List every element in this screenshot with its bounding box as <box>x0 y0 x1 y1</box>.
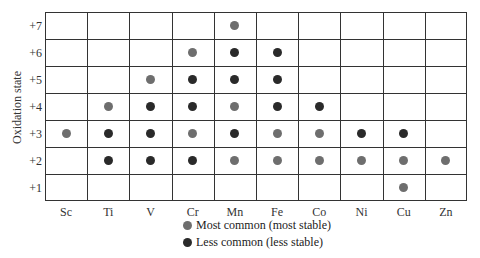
grid-vline <box>340 13 341 200</box>
x-tick-label: Ni <box>341 205 383 219</box>
legend-item-less-common: Less common (less stable) <box>183 234 331 251</box>
data-point-dot <box>315 129 324 138</box>
grid-hline <box>46 120 466 121</box>
y-tick-label: +7 <box>18 19 42 33</box>
legend-label: Most common (most stable) <box>196 217 331 234</box>
data-point-dot <box>273 48 282 57</box>
grid-vline <box>172 13 173 200</box>
data-point-dot <box>146 75 155 84</box>
legend: Most common (most stable) Less common (l… <box>183 217 331 251</box>
data-point-dot <box>273 156 282 165</box>
grid-vline <box>256 13 257 200</box>
x-tick-label: Zn <box>425 205 467 219</box>
grid-vline <box>298 13 299 200</box>
grid-vline <box>214 13 215 200</box>
y-tick-label: +4 <box>18 100 42 114</box>
grid-vline <box>129 13 130 200</box>
y-tick-label: +3 <box>18 127 42 141</box>
data-point-dot <box>357 156 366 165</box>
data-point-dot <box>315 156 324 165</box>
grid-vline <box>383 13 384 200</box>
x-tick-label: Cu <box>383 205 425 219</box>
y-tick-label: +2 <box>18 154 42 168</box>
grid-vline <box>87 13 88 200</box>
data-point-dot <box>357 129 366 138</box>
grid-hline <box>46 147 466 148</box>
legend-dot-icon <box>183 238 192 247</box>
data-point-dot <box>104 129 113 138</box>
y-tick-label: +6 <box>18 46 42 60</box>
oxidation-state-chart: Oxidation state +7+6+5+4+3+2+1 ScTiVCrMn… <box>0 0 480 258</box>
x-tick-label: Sc <box>45 205 87 219</box>
data-point-dot <box>62 129 71 138</box>
legend-label: Less common (less stable) <box>196 234 323 251</box>
legend-item-most-common: Most common (most stable) <box>183 217 331 234</box>
data-point-dot <box>315 102 324 111</box>
y-tick-label: +5 <box>18 73 42 87</box>
x-tick-label: Ti <box>87 205 129 219</box>
data-point-dot <box>104 102 113 111</box>
x-tick-label: V <box>130 205 172 219</box>
data-point-dot <box>104 156 113 165</box>
data-point-dot <box>273 129 282 138</box>
data-point-dot <box>146 129 155 138</box>
grid-hline <box>46 93 466 94</box>
grid-vline <box>425 13 426 200</box>
data-point-dot <box>146 156 155 165</box>
y-tick-label: +1 <box>18 181 42 195</box>
grid-hline <box>46 174 466 175</box>
legend-dot-icon <box>183 221 192 230</box>
data-point-dot <box>273 102 282 111</box>
data-point-dot <box>273 75 282 84</box>
grid-hline <box>46 39 466 40</box>
grid-hline <box>46 66 466 67</box>
data-point-dot <box>146 102 155 111</box>
